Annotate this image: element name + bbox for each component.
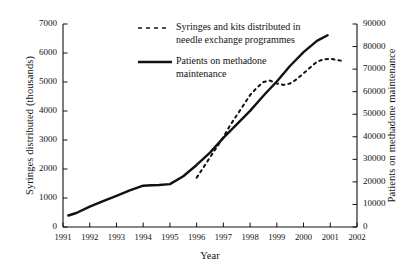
- left-tick-label: 0: [11, 221, 57, 231]
- right-tick-label: 0: [363, 221, 411, 231]
- bottom-axis-ticks: [63, 223, 357, 228]
- legend-entry-syringes: Syringes and kits distributed in needle …: [176, 21, 300, 46]
- right-axis-ticks: [353, 24, 358, 227]
- chart-figure: Syringes distributed (thousands) Patient…: [0, 0, 420, 273]
- right-tick-label: 10000: [363, 198, 411, 208]
- right-tick-label: 80000: [363, 41, 411, 51]
- right-tick-label: 70000: [363, 63, 411, 73]
- left-tick-label: 4000: [11, 105, 57, 115]
- x-axis-title: Year: [0, 250, 420, 261]
- left-tick-label: 2000: [11, 163, 57, 173]
- right-tick-label: 20000: [363, 176, 411, 186]
- left-tick-label: 7000: [11, 18, 57, 28]
- left-tick-label: 6000: [11, 47, 57, 57]
- left-axis-title: Syringes distributed (thousands): [24, 36, 35, 216]
- left-axis-ticks: [63, 24, 68, 227]
- left-tick-label: 1000: [11, 192, 57, 202]
- left-tick-label: 3000: [11, 134, 57, 144]
- legend-entry-methadone: Patients on methadone maintenance: [176, 55, 267, 80]
- right-tick-label: 50000: [363, 108, 411, 118]
- footer-text-fragment: [0, 263, 420, 273]
- right-tick-label: 60000: [363, 86, 411, 96]
- right-tick-label: 30000: [363, 153, 411, 163]
- x-tick-label: 2002: [340, 232, 374, 242]
- right-tick-label: 90000: [363, 18, 411, 28]
- right-tick-label: 40000: [363, 131, 411, 141]
- left-tick-label: 5000: [11, 76, 57, 86]
